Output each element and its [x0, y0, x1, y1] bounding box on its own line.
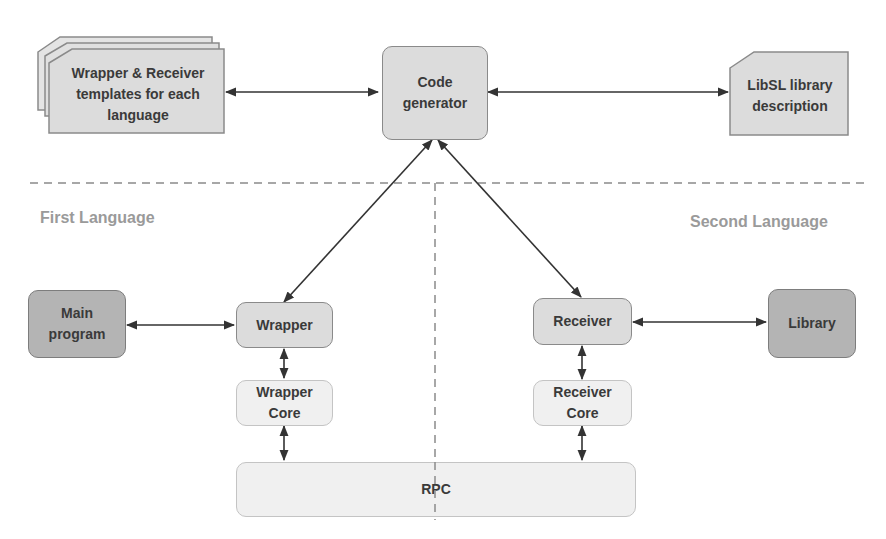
- library-node[interactable]: Library: [768, 289, 856, 358]
- rpc-node[interactable]: RPC: [236, 462, 636, 517]
- wrapper-node[interactable]: Wrapper: [236, 302, 333, 348]
- arrow-codegen-wrapper: [284, 140, 432, 302]
- library-label: Library: [788, 313, 835, 334]
- code-generator-label: Code generator: [395, 72, 475, 114]
- first-language-label: First Language: [40, 209, 155, 227]
- code-generator-node[interactable]: Code generator: [382, 46, 488, 140]
- receiver-node[interactable]: Receiver: [533, 298, 632, 345]
- templates-node[interactable]: Wrapper & Receiver templates for each la…: [52, 56, 224, 132]
- receiver-label: Receiver: [553, 311, 611, 332]
- arrow-codegen-receiver: [438, 140, 581, 297]
- templates-label: Wrapper & Receiver templates for each la…: [52, 63, 224, 126]
- main-program-node[interactable]: Main program: [28, 290, 126, 358]
- wrapper-core-node[interactable]: Wrapper Core: [236, 380, 333, 426]
- libsl-description-node[interactable]: LibSL library description: [732, 58, 848, 134]
- receiver-core-label: Receiver Core: [548, 382, 618, 424]
- second-language-label: Second Language: [690, 213, 828, 231]
- main-program-label: Main program: [42, 303, 112, 345]
- receiver-core-node[interactable]: Receiver Core: [533, 380, 632, 426]
- wrapper-label: Wrapper: [256, 315, 313, 336]
- wrapper-core-label: Wrapper Core: [255, 382, 315, 424]
- libsl-description-label: LibSL library description: [743, 75, 838, 117]
- rpc-label: RPC: [421, 479, 451, 500]
